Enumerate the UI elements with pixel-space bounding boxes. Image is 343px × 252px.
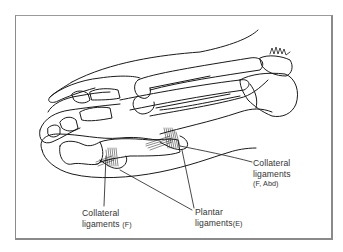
anatomical-drawing xyxy=(0,0,343,252)
label-line: Collateral xyxy=(82,208,132,219)
label-plantar-ligaments-e: Plantar ligaments(E) xyxy=(195,207,243,229)
first-metatarsal xyxy=(150,80,272,134)
label-line: Plantar xyxy=(195,207,243,218)
leader-plantar-2 xyxy=(182,150,194,208)
label-line: (F, Abd) xyxy=(253,179,291,190)
leader-plantar-1 xyxy=(120,170,192,210)
phalanx-small-4 xyxy=(80,107,112,121)
label-suffix: (F) xyxy=(122,220,131,229)
phalanx-small-3 xyxy=(60,117,78,131)
label-line: Collateral xyxy=(253,158,291,169)
label-line: ligaments xyxy=(253,169,291,180)
metatarsal-3 xyxy=(120,80,249,110)
label-line: ligaments (F) xyxy=(82,219,132,231)
cut-ligament-fringe xyxy=(270,47,290,55)
phalanx-small-2 xyxy=(90,89,120,100)
label-collateral-ligaments-f: Collateral ligaments (F) xyxy=(82,208,132,230)
distal-phalanx-hallux xyxy=(60,141,103,164)
label-suffix: (E) xyxy=(233,219,243,228)
label-line: ligaments(E) xyxy=(195,218,243,230)
leader-collateral-f-abd xyxy=(180,146,252,162)
label-text: ligaments xyxy=(82,219,120,229)
label-collateral-ligaments-f-abd: Collateral ligaments (F, Abd) xyxy=(253,158,291,190)
label-text: ligaments xyxy=(195,218,233,228)
